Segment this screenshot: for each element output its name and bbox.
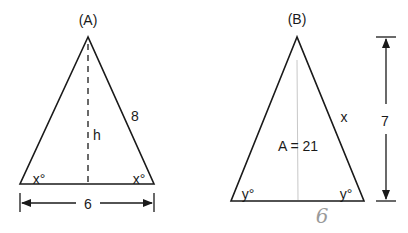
angle-right-a: x° (133, 171, 146, 187)
height-label-b: 7 (381, 113, 389, 129)
handwritten-base-label: 6 (316, 204, 329, 228)
angle-left-b: y° (242, 186, 255, 202)
side-label-a: 8 (131, 108, 139, 124)
figure-b-label: (B) (288, 11, 307, 27)
figure-a-label: (A) (79, 12, 98, 28)
figure-b: (B) x A = 21 7 y° y° 6 (231, 11, 396, 228)
side-label-b: x (341, 109, 348, 125)
arrowhead-up-icon (382, 38, 390, 48)
pencil-mark (297, 60, 298, 200)
angle-right-b: y° (340, 186, 353, 202)
angle-left-a: x° (33, 171, 46, 187)
arrowhead-right-icon (143, 199, 153, 207)
arrowhead-left-icon (21, 199, 31, 207)
arrowhead-down-icon (382, 190, 390, 200)
base-label-a: 6 (84, 196, 92, 212)
diagram-canvas: (A) 8 h x° x° 6 (B) x A = 21 7 y° y° 6 (0, 0, 408, 233)
area-label-b: A = 21 (278, 138, 318, 154)
figure-a: (A) 8 h x° x° 6 (20, 12, 154, 212)
height-label-a: h (93, 127, 101, 143)
